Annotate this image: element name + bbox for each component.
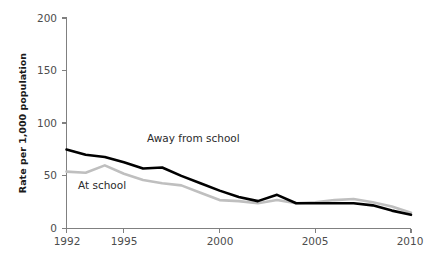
x-tick-label: 2005 bbox=[302, 235, 329, 247]
y-tick-label: 150 bbox=[37, 64, 57, 76]
line-chart: Rate per 1,000 population 0 50 100 150 2… bbox=[0, 0, 430, 263]
series-label-away-from-school: Away from school bbox=[147, 132, 240, 144]
y-axis-tick-labels: 0 50 100 150 200 bbox=[37, 12, 57, 235]
y-tick-label: 100 bbox=[37, 117, 57, 129]
x-tick-label: 2010 bbox=[397, 235, 424, 247]
x-tick-label: 2000 bbox=[207, 235, 234, 247]
x-axis-tick-labels: 1992 1995 2000 2005 2010 bbox=[54, 235, 424, 247]
x-tick-label: 1995 bbox=[111, 235, 138, 247]
chart-figure: Rate per 1,000 population 0 50 100 150 2… bbox=[0, 0, 430, 263]
y-axis-title: Rate per 1,000 population bbox=[17, 53, 28, 193]
y-tick-label: 0 bbox=[50, 222, 57, 234]
x-tick-label: 1992 bbox=[54, 235, 81, 247]
series-label-at-school: At school bbox=[78, 179, 126, 191]
y-tick-label: 200 bbox=[37, 12, 57, 24]
y-axis-ticks bbox=[62, 18, 67, 229]
y-tick-label: 50 bbox=[44, 169, 57, 181]
x-axis-ticks bbox=[67, 229, 412, 234]
